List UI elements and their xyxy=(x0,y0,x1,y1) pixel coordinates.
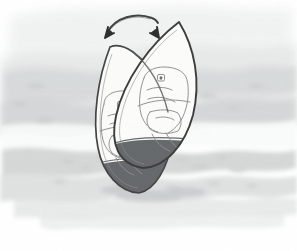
paper-grain xyxy=(0,0,297,251)
illustration-canvas: Kayak rocking side to side Hand-drawn wa… xyxy=(0,0,297,251)
kayak-rocking-illustration xyxy=(0,0,297,251)
